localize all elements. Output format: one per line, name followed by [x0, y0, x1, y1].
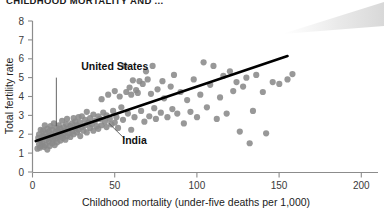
x-tick-label: 200	[353, 180, 370, 191]
scatter-point	[243, 75, 249, 81]
scatter-point	[253, 72, 259, 78]
scatter-point	[250, 108, 256, 114]
scatter-point	[164, 114, 170, 120]
annotation-label: United States	[81, 60, 148, 72]
scatter-point	[112, 88, 118, 94]
scatter-point	[140, 81, 146, 87]
y-tick-label: 7	[18, 35, 24, 46]
x-axis-title: Childhood mortality (under-five deaths p…	[82, 196, 310, 208]
y-tick-label: 3	[18, 110, 24, 121]
scatter-point	[148, 91, 154, 97]
y-tick-label: 8	[18, 16, 24, 27]
scatter-point	[181, 120, 187, 126]
scatter-point	[77, 133, 83, 139]
scatter-point	[230, 88, 236, 94]
scatter-point	[138, 108, 144, 114]
scatter-point	[210, 63, 216, 69]
scatter-point	[118, 104, 124, 110]
scatter-point	[154, 86, 160, 92]
scatter-point	[84, 109, 90, 115]
y-tick-label: 2	[18, 129, 24, 140]
x-tick-label: 0	[30, 180, 36, 191]
scatter-point	[117, 93, 123, 99]
scatter-point	[128, 92, 134, 98]
scatter-point	[64, 116, 70, 122]
trend-line	[36, 56, 288, 141]
scatter-point	[126, 84, 132, 90]
x-axis-tick-labels: 0 50 100 150 200	[30, 180, 370, 191]
y-tick-label: 4	[18, 91, 24, 102]
scatter-point	[194, 114, 200, 120]
scatter-point	[237, 128, 243, 134]
scatter-point	[112, 119, 118, 125]
scatter-point	[187, 109, 193, 115]
scatter-point	[289, 71, 295, 77]
scatter-point	[201, 59, 207, 65]
scatter-point	[214, 116, 220, 122]
scatter-point	[171, 72, 177, 78]
scatter-point	[247, 140, 253, 146]
scatter-point	[153, 116, 159, 122]
scatter-point	[131, 114, 137, 120]
scatter-point	[99, 96, 105, 102]
x-tick-label: 50	[109, 180, 121, 191]
scatter-point	[135, 90, 141, 96]
scatter-point	[150, 63, 156, 69]
scatter-point	[217, 94, 223, 100]
scatter-point	[174, 110, 180, 116]
scatter-point	[146, 113, 152, 119]
chart-figure: CHILDHOOD MORTALITY AND ...	[0, 0, 384, 214]
scatter-point	[169, 106, 175, 112]
y-tick-label: 0	[18, 167, 24, 178]
scatter-plot: 0 1 2 3 4 5 6 7 8 0 50 100 150 200 Child…	[0, 0, 384, 214]
scatter-point	[168, 84, 174, 90]
x-tick-label: 100	[189, 180, 206, 191]
scatter-point	[105, 92, 111, 98]
y-axis-ticks	[28, 21, 33, 172]
y-tick-label: 5	[18, 72, 24, 83]
scatter-point	[145, 76, 151, 82]
scatter-point	[197, 92, 203, 98]
scatter-point	[284, 76, 290, 82]
y-axis-title: Total fertility rate	[3, 58, 15, 135]
trend-line-path	[36, 56, 288, 141]
scatter-point	[260, 89, 266, 95]
x-axis-ticks	[33, 173, 362, 178]
scatter-point	[240, 84, 246, 90]
scatter-point	[151, 105, 157, 111]
scatter-point	[120, 117, 126, 123]
scatter-point	[184, 97, 190, 103]
scatter-point	[204, 104, 210, 110]
scatter-point	[276, 81, 282, 87]
x-tick-label: 150	[271, 180, 288, 191]
annotation-label: India	[122, 134, 147, 146]
scatter-point	[130, 77, 136, 83]
scatter-point	[158, 110, 164, 116]
scatter-point	[233, 79, 239, 85]
y-axis-tick-labels: 0 1 2 3 4 5 6 7 8	[18, 16, 24, 178]
scatter-point	[141, 119, 147, 125]
scatter-points	[34, 59, 295, 152]
scatter-point	[270, 79, 276, 85]
scatter-point	[263, 130, 269, 136]
scatter-point	[159, 78, 165, 84]
scatter-point	[191, 76, 197, 82]
y-tick-label: 6	[18, 53, 24, 64]
scatter-point	[224, 110, 230, 116]
scatter-point	[128, 127, 134, 133]
y-tick-label: 1	[18, 148, 24, 159]
